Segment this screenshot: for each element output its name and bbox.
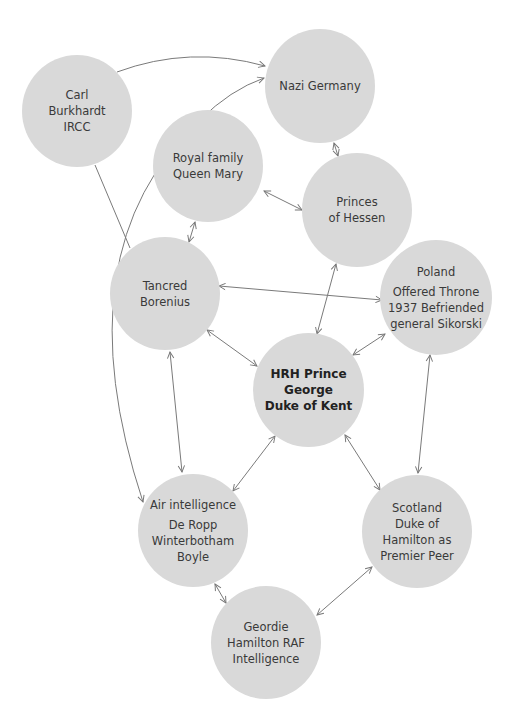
edge-tancred-george <box>207 330 257 366</box>
node-label: IRCC <box>64 119 91 135</box>
node-princes-of-hessen: Princes of Hessen <box>302 153 412 267</box>
node-label: Borenius <box>140 294 190 310</box>
node-scotland: Scotland Duke of Hamilton as Premier Pee… <box>362 475 472 588</box>
node-label: Hamilton as <box>383 532 452 548</box>
edge-tancred-air <box>170 352 182 472</box>
node-label: Tancred <box>143 278 188 294</box>
node-label: general Sikorski <box>390 316 482 332</box>
node-label: Duke of <box>395 516 439 532</box>
node-label: Princes <box>336 194 377 210</box>
edge-carl-nazi <box>117 57 265 72</box>
edge-royal-tancred <box>189 222 195 242</box>
node-label: Burkhardt <box>48 103 105 119</box>
edge-george-air <box>233 436 275 491</box>
edge-carl-tancred <box>95 165 130 248</box>
node-label: 1937 Befriended <box>388 300 484 316</box>
node-label: Royal family <box>173 150 244 166</box>
edge-geordie-scotland <box>317 567 372 615</box>
node-label: George <box>284 382 333 398</box>
node-title: Poland <box>417 264 455 280</box>
node-royal-family: Royal family Queen Mary <box>153 110 263 222</box>
node-title: Air intelligence <box>150 497 236 513</box>
edge-george-scotland <box>345 435 380 490</box>
edge-royal-hessen <box>264 191 302 210</box>
edge-tancred-poland <box>219 286 382 300</box>
edge-hessen-george <box>317 264 336 334</box>
node-label: De Ropp <box>169 517 218 533</box>
node-label: Duke of Kent <box>265 398 353 414</box>
node-label: Nazi Germany <box>279 78 360 94</box>
edge-poland-george <box>353 334 385 355</box>
node-label: Scotland <box>392 500 442 516</box>
node-nazi-germany: Nazi Germany <box>265 29 375 143</box>
node-label: Geordie <box>243 619 288 635</box>
node-label: Queen Mary <box>173 166 243 182</box>
node-label: Boyle <box>177 549 209 565</box>
node-label: HRH Prince <box>270 366 346 382</box>
edge-poland-scotland <box>418 355 430 473</box>
node-label: Hamilton RAF <box>227 635 305 651</box>
node-label: Premier Peer <box>380 548 454 564</box>
node-label: of Hessen <box>329 210 386 226</box>
edge-nazi-hessen <box>334 143 338 156</box>
node-geordie-hamilton: Geordie Hamilton RAF Intelligence <box>211 586 321 699</box>
node-carl-burkhardt: Carl Burkhardt IRCC <box>22 55 132 167</box>
node-label: Carl <box>66 87 89 103</box>
node-poland: Poland Offered Throne 1937 Befriended ge… <box>380 240 492 355</box>
node-label: Winterbotham <box>152 533 234 549</box>
node-tancred-borenius: Tancred Borenius <box>110 237 220 350</box>
node-label: Intelligence <box>233 651 300 667</box>
node-label: Offered Throne <box>393 284 480 300</box>
edge-air-geordie <box>215 584 226 603</box>
node-air-intelligence: Air intelligence De Ropp Winterbotham Bo… <box>138 474 248 587</box>
node-hrh-prince-george: HRH Prince George Duke of Kent <box>253 333 364 447</box>
